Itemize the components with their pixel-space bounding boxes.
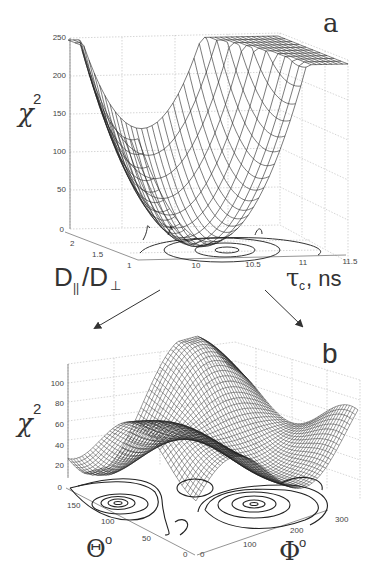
panel-b-surface bbox=[68, 336, 358, 501]
svg-text:50: 50 bbox=[142, 534, 151, 543]
svg-text:40: 40 bbox=[55, 441, 64, 450]
svg-text:, ns: , ns bbox=[306, 266, 341, 291]
svg-text:D: D bbox=[54, 262, 73, 292]
svg-text:τ: τ bbox=[286, 264, 299, 292]
svg-text:250: 250 bbox=[53, 33, 67, 42]
panel-a-y-label: τ c , ns bbox=[286, 264, 341, 293]
svg-text:0: 0 bbox=[58, 483, 63, 492]
svg-text:100: 100 bbox=[101, 517, 115, 526]
svg-text:100: 100 bbox=[243, 540, 257, 549]
svg-text:150: 150 bbox=[53, 109, 67, 118]
panel-a-surface bbox=[68, 36, 348, 247]
svg-text:2: 2 bbox=[70, 239, 75, 248]
svg-text:0: 0 bbox=[200, 550, 205, 559]
svg-text:||: || bbox=[73, 281, 79, 295]
svg-text:⊥: ⊥ bbox=[110, 278, 121, 293]
panel-a: 250 200 150 100 50 0 2 1.5 1 10 10.5 11 … bbox=[16, 8, 358, 295]
svg-text:/D: /D bbox=[82, 262, 108, 292]
panel-a-z-label: χ 2 bbox=[16, 90, 41, 128]
svg-text:60: 60 bbox=[55, 420, 64, 429]
svg-text:χ: χ bbox=[15, 408, 35, 438]
panel-a-x-label: D || /D ⊥ bbox=[54, 262, 121, 295]
svg-text:Θ: Θ bbox=[86, 535, 106, 563]
svg-text:300: 300 bbox=[335, 515, 349, 524]
svg-text:50: 50 bbox=[57, 185, 66, 194]
svg-text:200: 200 bbox=[290, 526, 304, 535]
svg-text:o: o bbox=[299, 535, 306, 550]
figure-canvas: 250 200 150 100 50 0 2 1.5 1 10 10.5 11 … bbox=[0, 0, 384, 576]
panel-b-theta-label: Θ o bbox=[86, 532, 112, 563]
panel-a-letter: a bbox=[323, 8, 339, 38]
svg-text:150: 150 bbox=[67, 501, 81, 510]
svg-text:100: 100 bbox=[51, 379, 65, 388]
svg-text:10: 10 bbox=[192, 261, 201, 270]
svg-text:20: 20 bbox=[55, 461, 64, 470]
arrow-left bbox=[95, 290, 160, 328]
svg-text:c: c bbox=[299, 279, 305, 293]
svg-text:0: 0 bbox=[183, 550, 188, 559]
svg-text:2: 2 bbox=[33, 400, 41, 417]
panel-b-letter: b bbox=[322, 338, 338, 369]
arrow-right bbox=[265, 290, 302, 326]
svg-text:Φ: Φ bbox=[279, 536, 300, 566]
svg-text:80: 80 bbox=[55, 399, 64, 408]
svg-text:2: 2 bbox=[33, 90, 41, 107]
svg-text:100: 100 bbox=[53, 147, 67, 156]
svg-text:o: o bbox=[105, 532, 112, 547]
panel-a-z-ticks: 250 200 150 100 50 0 bbox=[53, 33, 67, 234]
panel-b-phi-label: Φ o bbox=[279, 535, 306, 566]
panel-b: 100 80 60 40 20 0 150 100 50 0 0 100 200… bbox=[15, 336, 360, 566]
svg-text:1.5: 1.5 bbox=[92, 250, 104, 259]
panel-b-z-label: χ 2 bbox=[15, 400, 41, 438]
svg-text:10.5: 10.5 bbox=[245, 260, 261, 269]
svg-text:0: 0 bbox=[60, 225, 65, 234]
svg-text:11.5: 11.5 bbox=[343, 257, 359, 266]
svg-text:200: 200 bbox=[53, 71, 67, 80]
svg-text:1: 1 bbox=[127, 261, 132, 270]
panel-b-z-ticks: 100 80 60 40 20 0 bbox=[51, 379, 65, 492]
